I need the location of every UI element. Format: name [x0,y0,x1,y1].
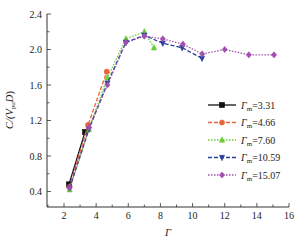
series-line [70,35,202,188]
data-point-marker [151,45,156,50]
y-tick-label: 1.2 [30,115,43,126]
legend: Γm=3.31Γm=4.66Γm=7.60Γm=10.59Γm=15.07 [208,100,280,183]
data-point-marker [246,52,251,58]
series-7-60 [67,29,157,192]
legend-entry: Γm=15.07 [208,170,280,183]
series-15-07 [67,33,277,191]
x-tick-label: 10 [188,210,198,221]
y-tick-label: 2.4 [30,9,43,20]
data-point-marker [222,46,227,52]
series-line [70,32,154,190]
x-axis-title: Γ [164,227,172,238]
legend-label: Γm=4.66 [240,117,275,130]
legend-entry: Γm=4.66 [208,117,275,130]
x-tick-label: 16 [284,210,294,221]
x-tick-label: 8 [158,210,163,221]
x-tick-label: 6 [126,210,131,221]
series-10-59 [67,33,205,191]
y-tick-label: 1.6 [30,80,43,91]
legend-entry: Γm=3.31 [208,100,275,113]
legend-entry: Γm=10.59 [208,152,280,165]
data-point-marker [219,102,224,107]
legend-label: Γm=7.60 [240,135,275,148]
x-tick-label: 14 [252,210,262,221]
y-axis-title: C/(VpuD) [4,91,17,129]
data-point-marker [104,69,109,74]
x-tick-label: 2 [62,210,67,221]
legend-label: Γm=3.31 [240,100,275,113]
data-point-marker [219,120,224,125]
legend-label: Γm=10.59 [240,152,280,165]
data-point-marker [271,52,276,58]
x-tick-label: 12 [220,210,230,221]
legend-entry: Γm=7.60 [208,135,275,148]
legend-label: Γm=15.07 [240,170,280,183]
y-tick-label: 2.0 [30,44,43,55]
axis-titles: Γ C/(VpuD) [4,91,172,238]
data-point-marker [219,172,224,178]
y-tick-label: 0.8 [30,151,43,162]
y-tick-label: 0.4 [30,186,43,197]
series-line [69,132,85,184]
x-tick-label: 4 [94,210,99,221]
series-line [70,36,274,188]
chart: 2468101214160.40.81.21.62.02.4 Γm=3.31Γm… [0,0,302,247]
